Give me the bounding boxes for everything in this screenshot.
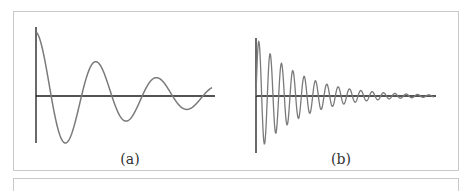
panel-b-label: (b) [321,151,361,167]
panel-b-damped-curve [256,42,434,144]
panel-a-label: (a) [110,151,150,167]
panel-a-damped-curve [36,32,212,143]
panel-b [256,38,436,153]
panel-a [36,27,215,143]
figure-canvas [0,0,471,191]
